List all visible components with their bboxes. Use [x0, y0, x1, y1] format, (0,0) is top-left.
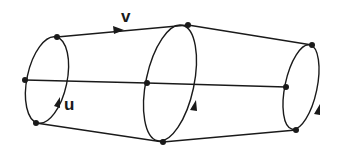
vertex [283, 84, 289, 90]
middle-edge [25, 80, 286, 87]
vertex [309, 42, 315, 48]
vertex [22, 77, 28, 83]
vertex [144, 80, 150, 86]
vertex [160, 139, 166, 145]
vertex [54, 34, 60, 40]
vertex [293, 127, 299, 133]
vertex [33, 120, 39, 126]
diagram-canvas: v u [0, 0, 344, 154]
arrow-right-icon [314, 104, 320, 115]
top-edge [57, 25, 312, 45]
arrow-middle-icon [190, 100, 197, 111]
arrow-v-icon [113, 26, 124, 34]
label-u: u [64, 95, 74, 114]
vertex [185, 22, 191, 28]
arrow-u-icon [54, 97, 60, 108]
label-v: v [121, 7, 131, 26]
